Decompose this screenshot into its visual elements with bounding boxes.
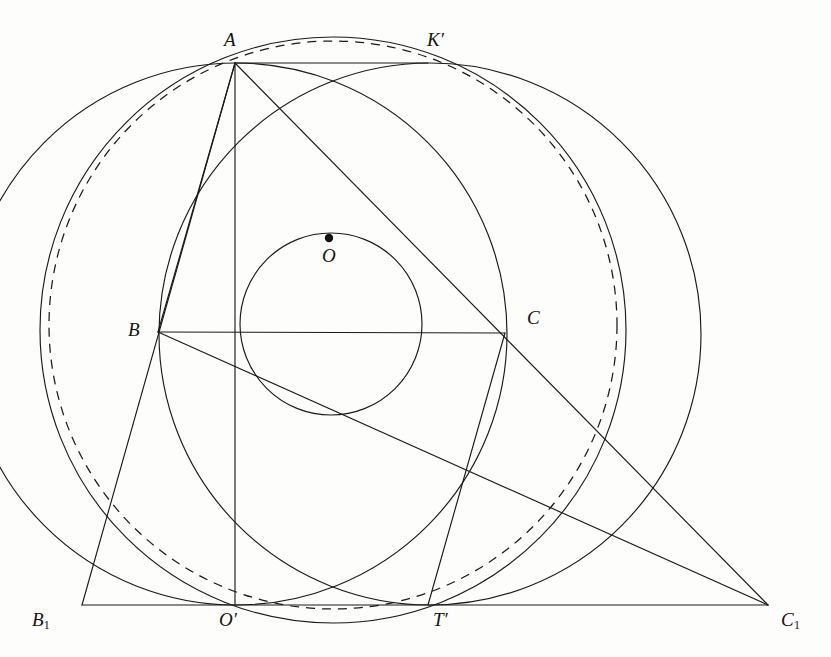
label-C: C bbox=[527, 308, 540, 327]
segment-C-Tprime bbox=[428, 333, 505, 605]
segment-B1-A bbox=[82, 63, 235, 605]
label-C1-base: C bbox=[781, 609, 794, 630]
left-tangent-circle bbox=[0, 63, 507, 605]
label-A: A bbox=[224, 30, 236, 49]
geometry-figure: A K′ B C O B1 O′ T′ C1 bbox=[0, 0, 831, 657]
segments-group bbox=[82, 63, 768, 605]
circles-group bbox=[0, 37, 701, 623]
label-B1-base: B bbox=[32, 609, 44, 630]
label-O-prime: O′ bbox=[219, 610, 237, 629]
label-C1-subscript: 1 bbox=[794, 618, 800, 632]
label-T-prime: T′ bbox=[433, 610, 448, 629]
label-B1-subscript: 1 bbox=[44, 618, 50, 632]
point-O-dot bbox=[325, 234, 333, 242]
label-B1: B1 bbox=[32, 610, 50, 631]
segment-B-C1 bbox=[158, 332, 768, 605]
point-markers-group bbox=[325, 234, 333, 242]
segment-B-C bbox=[158, 332, 505, 333]
label-B: B bbox=[128, 320, 140, 339]
label-C1: C1 bbox=[781, 610, 800, 631]
label-K-prime: K′ bbox=[427, 30, 444, 49]
label-O: O bbox=[322, 246, 336, 265]
segment-A-C1 bbox=[235, 63, 768, 605]
geometry-canvas bbox=[0, 0, 831, 657]
